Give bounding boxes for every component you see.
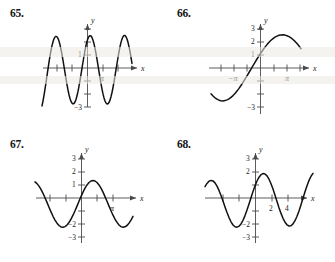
x-axis-arrow	[131, 66, 137, 71]
y-tick-label-2: 2	[72, 167, 76, 176]
exercise-cell-65: 65.	[0, 0, 167, 131]
graph-67: y x 1 2 3 −2 −3 π	[0, 131, 167, 262]
y-axis-arrow	[253, 153, 258, 159]
x-axis-arrow	[303, 66, 309, 71]
y-tick-label-neg2: −2	[242, 220, 250, 229]
graph-68: y x 2 3 −2 −3 2 4	[167, 131, 335, 262]
x-tick-label-neg-pi: −π	[228, 74, 238, 83]
y-tick-label-3: 3	[246, 154, 250, 163]
y-tick-label-2: 2	[246, 167, 250, 176]
y-tick-label-3: 3	[251, 24, 255, 33]
exercise-cell-67: 67. y	[0, 131, 167, 262]
y-axis-arrow	[79, 153, 84, 159]
x-axis-label: x	[140, 64, 145, 73]
y-tick-label-1: 1	[251, 50, 255, 59]
y-tick-label-neg3: −3	[247, 103, 255, 112]
graph-67-svg: y x 1 2 3 −2 −3 π	[0, 131, 167, 262]
graph-65-svg: y x 1 −3 π	[0, 0, 167, 131]
x-tick-label-pi: π	[110, 204, 115, 213]
exercise-grid: 65.	[0, 0, 335, 262]
y-axis-label: y	[258, 145, 263, 154]
graph-66-svg: y x 1 2 3 −3 −π π	[167, 0, 335, 131]
y-tick-label-2: 2	[251, 37, 255, 46]
x-tick-label-4: 4	[285, 204, 289, 213]
y-tick-label-neg3: −3	[68, 233, 76, 242]
y-axis-label: y	[84, 145, 89, 154]
y-axis-label: y	[90, 16, 95, 25]
x-axis-label: x	[312, 64, 317, 73]
graph-68-svg: y x 2 3 −2 −3 2 4	[167, 131, 335, 262]
graph-65: y x 1 −3 π	[0, 0, 167, 131]
x-axis-label: x	[310, 194, 315, 203]
x-tick-label-pi: π	[285, 74, 290, 83]
y-tick-label-1: 1	[72, 180, 76, 189]
y-tick-label-neg3: −3	[242, 233, 250, 242]
exercise-cell-68: 68. y	[167, 131, 335, 262]
curve	[205, 173, 313, 227]
y-tick-label-1: 1	[78, 50, 82, 59]
x-axis-arrow	[130, 196, 136, 201]
graph-66: y x 1 2 3 −3 −π π	[167, 0, 335, 131]
y-tick-label-3: 3	[72, 154, 76, 163]
x-tick-label-pi: π	[100, 74, 105, 83]
x-tick-label-2: 2	[269, 204, 273, 213]
y-tick-label-neg2: −2	[68, 220, 76, 229]
y-axis-label: y	[263, 16, 268, 25]
curve	[42, 36, 132, 106]
y-tick-label-neg3: −3	[74, 103, 82, 112]
curve	[35, 181, 133, 228]
x-axis-label: x	[139, 194, 144, 203]
exercise-cell-66: 66.	[167, 0, 335, 131]
